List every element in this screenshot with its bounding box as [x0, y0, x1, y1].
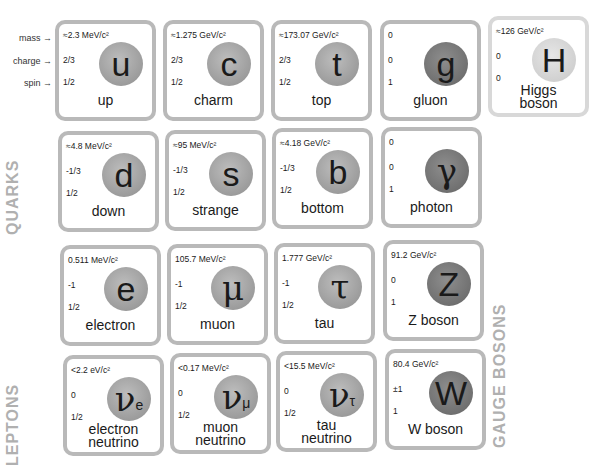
group-label-leptons: LEPTONS — [4, 384, 22, 466]
particle-symbol: γ — [425, 149, 469, 193]
spin-value: 1/2 — [175, 301, 187, 311]
particle-name: tau — [278, 317, 371, 330]
particle-name: muon neutrino — [174, 421, 267, 447]
spin-value: 1/2 — [178, 410, 190, 420]
mass-value: 0 — [388, 30, 393, 40]
charge-value: -1/3 — [173, 165, 188, 175]
particle-card-tau-neutrino: <15.5 MeV/c² 0 1/2 ντ tau neutrino — [276, 351, 377, 452]
particle-name: Z boson — [387, 314, 480, 327]
symbol-subscript: μ — [242, 396, 250, 410]
particle-symbol: τ — [318, 265, 362, 309]
group-label-quarks: QUARKS — [4, 160, 22, 235]
mass-value: ≈1.275 GeV/c² — [171, 30, 226, 40]
spin-value: 1/2 — [171, 77, 183, 87]
particle-card-higgs: ≈126 GeV/c² 0 0 H Higgs boson — [488, 16, 589, 117]
particle-symbol: ντ — [320, 373, 364, 417]
symbol-main: ν — [329, 378, 350, 412]
charge-value: 0 — [71, 390, 76, 400]
particle-name-line2: neutrino — [67, 436, 160, 449]
particle-card-electron: 0.511 MeV/c² -1 1/2 e electron — [60, 245, 161, 346]
particle-card-electron-neutrino: <2.2 eV/c² 0 1/2 νe electron neutrino — [63, 355, 164, 456]
particle-symbol: νμ — [214, 375, 258, 419]
particle-name: tau neutrino — [280, 419, 373, 445]
symbol-main: ν — [115, 382, 136, 416]
particle-name: gluon — [384, 94, 477, 107]
charge-value: -1/3 — [280, 163, 295, 173]
mass-value: 80.4 GeV/c² — [393, 359, 438, 369]
particle-name: down — [62, 205, 155, 218]
particle-name: top — [275, 94, 368, 107]
group-label-gauge-bosons: GAUGE BOSONS — [491, 304, 509, 448]
charge-value: -1 — [68, 280, 76, 290]
mass-value: <15.5 MeV/c² — [284, 361, 335, 371]
charge-value: 0 — [391, 275, 396, 285]
particle-card-w-boson: 80.4 GeV/c² ±1 1 W W boson — [385, 349, 486, 450]
particle-card-muon-neutrino: <0.17 MeV/c² 0 1/2 νμ muon neutrino — [170, 353, 271, 454]
particle-symbol: Z — [427, 262, 471, 306]
spin-value: 1/2 — [63, 77, 75, 87]
particle-symbol: g — [424, 42, 468, 86]
mass-value: 105.7 MeV/c² — [175, 254, 226, 264]
particle-symbol: νe — [107, 377, 151, 421]
particle-name: up — [59, 94, 152, 107]
mass-value: ≈126 GeV/c² — [496, 26, 544, 36]
particle-name-line2: neutrino — [174, 434, 267, 447]
legend-charge: charge → — [0, 56, 52, 66]
spin-value: 1/2 — [284, 408, 296, 418]
mass-value: ≈95 MeV/c² — [173, 140, 216, 150]
mass-value: ≈173.07 GeV/c² — [279, 30, 338, 40]
particle-card-muon: 105.7 MeV/c² -1 1/2 μ muon — [167, 244, 268, 345]
particle-name-line2: boson — [492, 97, 585, 110]
spin-value: 1/2 — [68, 302, 80, 312]
particle-name: electron neutrino — [67, 423, 160, 449]
charge-value: -1 — [175, 279, 183, 289]
particle-name-line2: neutrino — [280, 432, 373, 445]
particle-name: charm — [167, 94, 260, 107]
mass-value: ≈4.8 MeV/c² — [66, 141, 112, 151]
mass-value: 0.511 MeV/c² — [68, 255, 118, 265]
charge-value: 0 — [496, 51, 501, 61]
spin-value: 1 — [389, 184, 394, 194]
particle-card-bottom: ≈4.18 GeV/c² -1/3 1/2 b bottom — [272, 128, 373, 229]
symbol-subscript: τ — [350, 394, 356, 408]
particle-card-charm: ≈1.275 GeV/c² 2/3 1/2 c charm — [163, 20, 264, 121]
particle-card-down: ≈4.8 MeV/c² -1/3 1/2 d down — [58, 131, 159, 232]
mass-value: <0.17 MeV/c² — [178, 363, 229, 373]
spin-value: 1/2 — [71, 412, 83, 422]
particle-symbol: W — [429, 371, 473, 415]
particle-symbol: e — [104, 267, 148, 311]
particle-name: W boson — [389, 423, 482, 436]
legend-mass: mass → — [0, 33, 52, 43]
particle-symbol: s — [209, 152, 253, 196]
charge-value: 0 — [388, 55, 393, 65]
mass-value: 1.777 GeV/c² — [282, 253, 332, 263]
symbol-main: ν — [222, 380, 243, 414]
spin-value: 1/2 — [279, 77, 291, 87]
spin-value: 1/2 — [282, 300, 294, 310]
particle-symbol: u — [99, 42, 143, 86]
spin-value: 1 — [391, 297, 396, 307]
spin-value: 1/2 — [66, 188, 78, 198]
particle-name: electron — [64, 319, 157, 332]
spin-value: 1/2 — [173, 187, 185, 197]
charge-value: -1 — [282, 278, 290, 288]
charge-value: 2/3 — [63, 55, 75, 65]
particle-card-tau: 1.777 GeV/c² -1 1/2 τ tau — [274, 243, 375, 344]
charge-value: 0 — [178, 388, 183, 398]
particle-name: photon — [385, 201, 478, 214]
spin-value: 0 — [496, 73, 501, 83]
particle-name: bottom — [276, 202, 369, 215]
particle-symbol: μ — [211, 266, 255, 310]
mass-value: 0 — [389, 137, 394, 147]
mass-value: ≈2.3 MeV/c² — [63, 30, 109, 40]
particle-card-photon: 0 0 1 γ photon — [381, 127, 482, 228]
particle-symbol: c — [207, 42, 251, 86]
legend-spin: spin → — [0, 78, 52, 88]
particle-card-up: ≈2.3 MeV/c² 2/3 1/2 u up — [55, 20, 156, 121]
particle-name: strange — [169, 204, 262, 217]
spin-value: 1 — [393, 406, 398, 416]
spin-value: 1/2 — [280, 185, 292, 195]
charge-value: 0 — [389, 162, 394, 172]
charge-value: 2/3 — [171, 55, 183, 65]
particle-symbol: b — [316, 150, 360, 194]
